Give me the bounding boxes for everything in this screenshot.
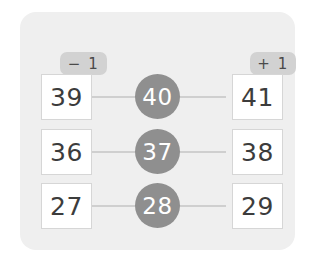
answer-box-before[interactable]: 36 [41,129,92,175]
answer-box-before[interactable]: 39 [41,74,92,120]
center-number-circle: 40 [135,74,180,119]
column-header-plus-one: + 1 [250,52,296,75]
answer-box-after[interactable]: 41 [232,74,283,120]
number-neighbors-card: − 1 + 1 39 40 41 36 37 38 27 28 29 [20,12,295,250]
worksheet-stage: − 1 + 1 39 40 41 36 37 38 27 28 29 [0,0,315,267]
answer-box-after[interactable]: 29 [232,183,283,229]
number-row: 39 40 41 [20,74,295,120]
number-row: 27 28 29 [20,183,295,229]
center-number-circle: 28 [135,183,180,228]
number-row: 36 37 38 [20,129,295,175]
center-number-circle: 37 [135,129,180,174]
column-header-minus-one: − 1 [60,52,107,75]
answer-box-before[interactable]: 27 [41,183,92,229]
answer-box-after[interactable]: 38 [232,129,283,175]
